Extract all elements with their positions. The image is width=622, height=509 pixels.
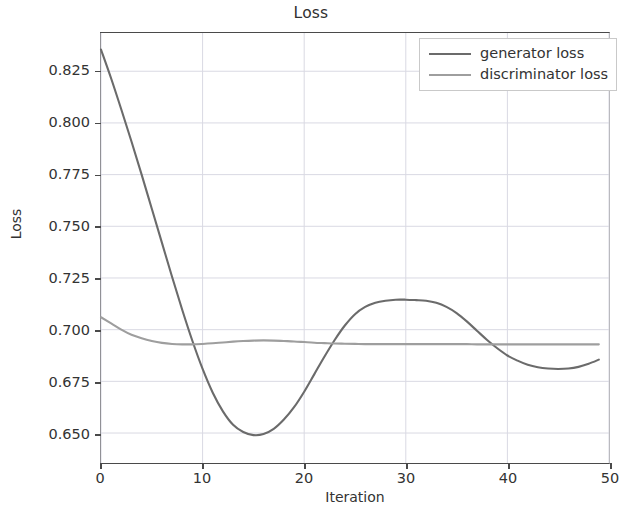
y-tick-mark [95, 71, 101, 72]
y-tick-mark [95, 434, 101, 435]
x-tick-label: 50 [601, 470, 619, 486]
x-tick-label: 10 [193, 470, 211, 486]
x-axis-tick-labels: 01020304050 [100, 470, 610, 490]
legend-swatch-discriminator-loss [429, 74, 471, 76]
chart-title: Loss [0, 4, 622, 22]
x-tick-label: 40 [499, 470, 517, 486]
y-tick-mark [95, 278, 101, 279]
y-tick-label: 0.775 [48, 166, 90, 182]
legend-label-discriminator-loss: discriminator loss [480, 67, 608, 83]
y-tick-label: 0.675 [48, 374, 90, 390]
y-tick-mark [95, 226, 101, 227]
legend-entry-discriminator-loss: discriminator loss [429, 67, 608, 83]
x-tick-label: 30 [397, 470, 415, 486]
x-axis-label: Iteration [100, 489, 610, 505]
y-tick-label: 0.825 [48, 62, 90, 78]
y-tick-mark [95, 175, 101, 176]
y-axis-tick-labels: 0.6500.6750.7000.7250.7500.7750.8000.825 [18, 32, 90, 464]
x-tick-mark [202, 463, 203, 469]
chart-legend: generator loss discriminator loss [419, 38, 617, 91]
legend-label-generator-loss: generator loss [480, 46, 584, 62]
y-tick-label: 0.800 [48, 114, 90, 130]
y-tick-mark [95, 123, 101, 124]
loss-chart-figure: Loss Loss 0.6500.6750.7000.7250.7500.775… [0, 0, 622, 509]
y-tick-mark [95, 382, 101, 383]
legend-swatch-generator-loss [429, 53, 471, 55]
legend-entry-generator-loss: generator loss [429, 46, 608, 62]
x-tick-mark [406, 463, 407, 469]
x-tick-mark [508, 463, 509, 469]
y-tick-label: 0.700 [48, 322, 90, 338]
y-tick-mark [95, 330, 101, 331]
x-tick-label: 20 [295, 470, 313, 486]
series-line-generator-loss [101, 50, 599, 436]
series-curves [101, 33, 609, 463]
x-tick-mark [304, 463, 305, 469]
y-tick-label: 0.750 [48, 218, 90, 234]
plot-area [100, 32, 610, 464]
y-tick-label: 0.650 [48, 426, 90, 442]
x-tick-mark [100, 463, 101, 469]
y-tick-label: 0.725 [48, 270, 90, 286]
series-line-discriminator-loss [101, 317, 599, 344]
x-tick-label: 0 [95, 470, 104, 486]
x-tick-mark [610, 463, 611, 469]
